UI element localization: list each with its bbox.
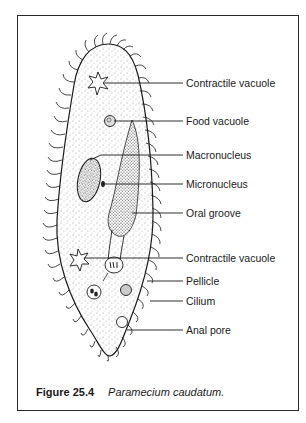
label-pellicle: Pellicle bbox=[186, 275, 219, 287]
figure-caption: Figure 25.4Paramecium caudatum. bbox=[36, 386, 224, 398]
label-micronucleus: Micronucleus bbox=[186, 178, 248, 190]
food-vacuole-shape bbox=[105, 116, 116, 127]
label-macronucleus: Macronucleus bbox=[186, 149, 251, 161]
body-outline bbox=[57, 44, 153, 356]
label-oral-groove: Oral groove bbox=[186, 207, 241, 219]
paramecium-illustration bbox=[0, 0, 306, 423]
label-food-vacuole: Food vacuole bbox=[186, 115, 249, 127]
label-contractile-vacuole-bottom: Contractile vacuole bbox=[186, 252, 275, 264]
figure-title: Paramecium caudatum. bbox=[108, 386, 224, 398]
label-contractile-vacuole-top: Contractile vacuole bbox=[186, 77, 275, 89]
label-anal-pore: Anal pore bbox=[186, 324, 231, 336]
figure-number: Figure 25.4 bbox=[36, 386, 94, 398]
micronucleus-shape bbox=[101, 181, 105, 187]
label-cilium: Cilium bbox=[186, 295, 215, 307]
